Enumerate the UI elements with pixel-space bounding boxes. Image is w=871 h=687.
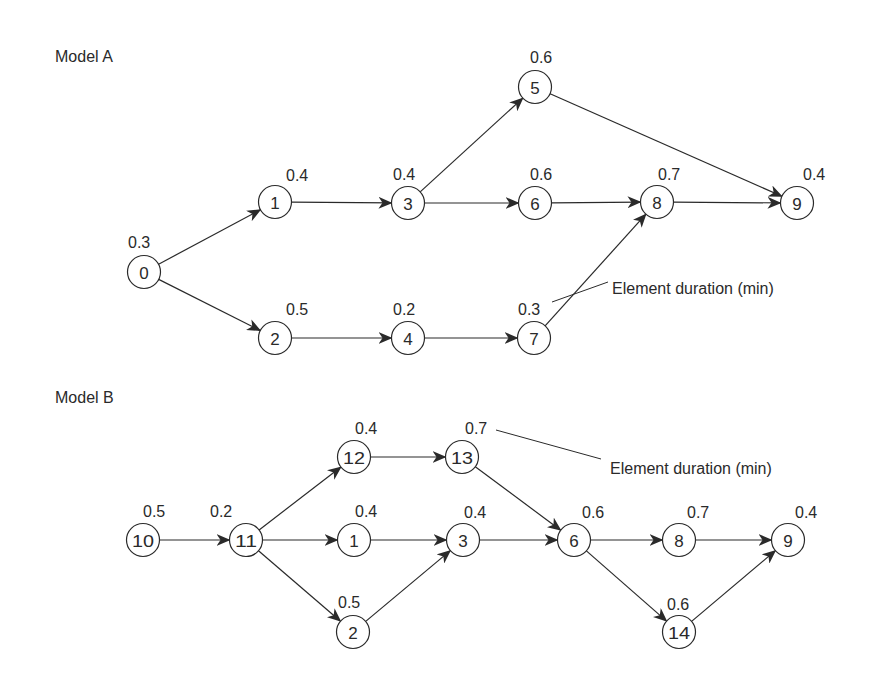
node-id: 2 [270,330,279,349]
element-duration-label: 0.5 [143,503,165,520]
element-duration-label: 0.3 [128,234,150,251]
model-a-edge-6-to-8 [552,202,641,203]
element-duration-label: 0.3 [518,301,540,318]
element-duration-label: 0.7 [658,166,680,183]
model-a-annotation-leader [552,282,608,302]
element-duration-label: 0.7 [687,504,709,521]
model-b-node-6: 60.6 [558,504,605,557]
node-id: 11 [235,532,257,551]
model-a-node-5: 50.6 [519,49,553,104]
model-b-node-8: 80.7 [663,504,710,557]
model-a-edge-1-to-3 [292,202,392,203]
node-id: 3 [403,195,412,214]
precedence-diagram: Model A Element duration (min) 00.310.42… [0,0,871,687]
model-b-edge-14-to-9 [692,551,776,622]
node-id: 3 [458,532,467,551]
element-duration-label: 0.4 [795,504,817,521]
element-duration-label: 0.4 [393,166,415,183]
node-id: 7 [529,330,538,349]
model-a-edge-0-to-1 [159,210,261,264]
model-b-edge-11-to-2 [259,551,341,621]
model-a-node-3: 30.4 [392,166,425,220]
model-a-node-0: 00.3 [128,234,161,289]
element-duration-label: 0.4 [355,503,377,520]
element-duration-label: 0.4 [464,504,486,521]
model-a-edge-3-to-5 [420,98,523,192]
model-b-node-12: 120.4 [338,420,378,474]
element-duration-label: 0.2 [210,503,232,520]
model-a-node-9: 90.4 [781,166,826,220]
model-b-annotation-leader [496,430,601,459]
model-a-annotation: Element duration (min) [612,280,774,297]
model-a-node-7: 70.3 [518,301,551,355]
model-a-edges [159,94,782,338]
model-a-node-8: 80.7 [641,166,681,219]
model-b-edge-6-to-14 [586,551,666,621]
element-duration-label: 0.4 [803,166,825,183]
node-id: 13 [451,449,473,468]
node-id: 8 [652,194,661,213]
node-id: 4 [403,330,412,349]
model-a-node-1: 10.4 [259,167,309,219]
node-id: 6 [569,532,578,551]
element-duration-label: 0.4 [355,420,377,437]
node-id: 9 [783,532,792,551]
model-b-annotation: Element duration (min) [610,460,772,477]
node-id: 1 [349,532,358,551]
model-a: Model A Element duration (min) 00.310.42… [55,48,825,355]
model-b-edge-2-to-3 [366,551,451,622]
model-b-node-14: 140.6 [663,596,696,649]
element-duration-label: 0.2 [393,301,415,318]
model-a-title: Model A [55,48,113,65]
model-b-node-3: 30.4 [447,504,487,557]
model-b-node-1: 10.4 [338,503,378,557]
model-a-edge-0-to-2 [159,279,261,330]
model-b-node-9: 90.4 [772,504,818,557]
element-duration-label: 0.6 [530,166,552,183]
model-b-edge-13-to-6 [475,467,560,530]
model-b: Model B Element duration (min) 100.5110.… [55,389,817,649]
node-id: 5 [530,79,539,98]
model-a-edge-7-to-8 [545,214,646,326]
node-id: 1 [270,194,279,213]
node-id: 0 [139,264,148,283]
model-b-title: Model B [55,389,114,406]
element-duration-label: 0.6 [667,596,689,613]
model-a-edge-8-to-9 [674,202,781,203]
model-b-node-10: 100.5 [127,503,166,557]
model-a-node-4: 40.2 [392,301,425,355]
node-id: 2 [348,624,357,643]
model-a-node-6: 60.6 [519,166,553,220]
node-id: 14 [668,624,690,643]
node-id: 12 [343,449,365,468]
model-b-node-2: 20.5 [337,594,370,649]
element-duration-label: 0.6 [530,49,552,66]
model-b-node-11: 110.2 [210,503,263,557]
element-duration-label: 0.5 [286,301,308,318]
element-duration-label: 0.4 [286,167,308,184]
node-id: 10 [132,532,154,551]
model-b-node-13: 130.7 [446,420,488,474]
element-duration-label: 0.7 [465,420,487,437]
model-a-node-2: 20.5 [259,301,309,355]
model-b-nodes: 100.5110.2120.410.420.5130.730.460.680.7… [127,420,818,649]
model-b-edge-11-to-12 [259,467,341,530]
node-id: 9 [792,195,801,214]
node-id: 6 [530,195,539,214]
node-id: 8 [674,532,683,551]
model-a-nodes: 00.310.420.530.440.250.660.670.380.790.4 [128,49,826,355]
element-duration-label: 0.5 [338,594,360,611]
element-duration-label: 0.6 [582,504,604,521]
